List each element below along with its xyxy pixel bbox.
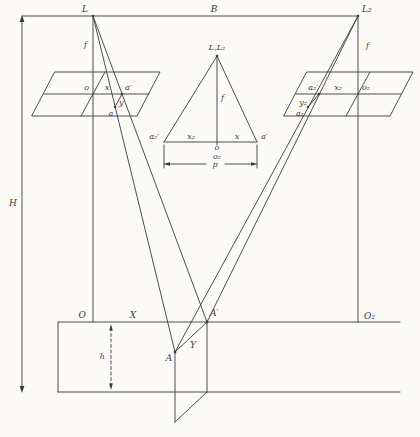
- right-principal-point-label: o₂: [362, 83, 370, 92]
- ground-Aprime-point: [206, 321, 209, 324]
- left-principal-point-label: o: [84, 83, 89, 92]
- overlay-o-label: o: [215, 143, 220, 152]
- overlay-x-label: x: [235, 132, 240, 141]
- station-L2-point: [357, 15, 360, 18]
- figure-page: L B L₂ H f f o x a′ y a a₂′ x₂ o₂ y₂ a₂ …: [0, 0, 420, 437]
- left-aprime-point: [121, 93, 123, 95]
- station-L2-label: L₂: [361, 4, 372, 14]
- stereo-parallax-diagram: L B L₂ H f f o x a′ y a a₂′ x₂ o₂ y₂ a₂ …: [0, 0, 420, 437]
- ground-A-label: A: [165, 353, 173, 363]
- left-y-label: y: [118, 98, 124, 107]
- left-a-label: a: [109, 109, 114, 118]
- station-L-point: [92, 15, 95, 18]
- station-L-label: L: [81, 4, 88, 14]
- left-a-point: [114, 106, 116, 108]
- parallax-label: p: [212, 160, 217, 169]
- ground-origin-left-label: O: [79, 310, 87, 320]
- overlay-a2prime-label: a₂′: [149, 132, 159, 141]
- right-a2prime-point: [318, 93, 320, 95]
- ground-Y-label: Y: [190, 340, 197, 350]
- left-x-label: x: [105, 83, 110, 92]
- overlay-x2-label: x₂: [187, 132, 195, 141]
- overlay-apex-label: L,L₂: [208, 43, 225, 52]
- right-a2-label: a₂: [296, 109, 304, 118]
- overlay-aprime-label: a′: [261, 132, 268, 141]
- ground-x-label: X: [129, 310, 137, 320]
- overlay-apex-point: [216, 55, 219, 58]
- left-aprime-label: a′: [125, 83, 132, 92]
- paper-background: [0, 0, 420, 437]
- right-y2-label: y₂: [298, 98, 307, 107]
- air-base-label: B: [210, 4, 218, 14]
- flying-height-label: H: [8, 198, 17, 208]
- right-a2prime-label: a₂′: [308, 83, 318, 92]
- right-x2-label: x₂: [334, 83, 342, 92]
- right-a2-point: [307, 106, 309, 108]
- ground-origin-right-label: O₂: [364, 311, 375, 321]
- ground-Aprime-label: A′: [209, 308, 219, 318]
- ground-A-point: [174, 351, 177, 354]
- elevation-label: h: [100, 352, 105, 361]
